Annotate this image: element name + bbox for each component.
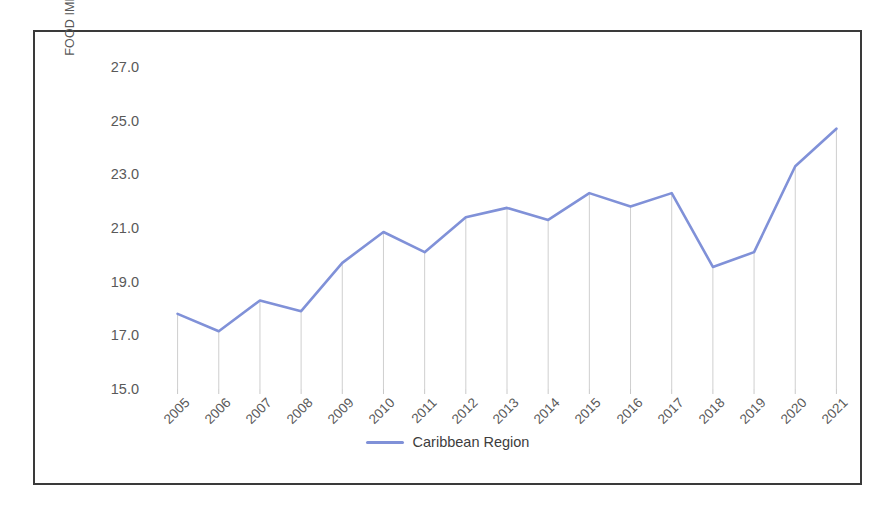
x-axis-tick-label: 2011 — [405, 395, 440, 430]
x-axis-tick-label: 2018 — [693, 395, 728, 430]
x-axis-tick-label: 2017 — [652, 395, 687, 430]
x-axis-tick-label: 2012 — [446, 395, 481, 430]
x-axis-tick-label: 2008 — [281, 395, 316, 430]
chart-legend: Caribbean Region — [35, 434, 860, 450]
x-axis-tick-label: 2021 — [816, 395, 851, 430]
y-axis-tick-label: 23.0 — [93, 166, 139, 182]
legend-line-swatch-caribbean-region — [366, 441, 404, 444]
x-axis-tick-label: 2019 — [734, 395, 769, 430]
y-axis-tick-label: 27.0 — [93, 59, 139, 75]
y-axis-tick-label: 21.0 — [93, 220, 139, 236]
x-axis-tick-label: 2020 — [775, 395, 810, 430]
x-axis-tick-label: 2010 — [363, 395, 398, 430]
x-axis-tick-label: 2009 — [322, 395, 357, 430]
x-axis-tick-label: 2014 — [528, 395, 563, 430]
x-axis-tick-label: 2007 — [240, 395, 275, 430]
y-axis-tick-label: 25.0 — [93, 113, 139, 129]
y-axis-tick-label: 17.0 — [93, 327, 139, 343]
y-axis-tick-label: 19.0 — [93, 274, 139, 290]
x-axis-tick-label: 2015 — [569, 395, 604, 430]
plot-area — [157, 67, 857, 389]
x-axis-tick-label: 2005 — [158, 395, 193, 430]
legend-label-caribbean-region: Caribbean Region — [413, 434, 530, 450]
line-chart-svg — [157, 67, 857, 389]
y-axis-tick-labels: 15.017.019.021.023.025.027.0 — [87, 32, 139, 483]
chart-plot-container: FOOD IMPORTS (% OF TOTAL MERCHANDISE IMP… — [35, 32, 860, 483]
x-axis-tick-label: 2016 — [610, 395, 645, 430]
x-axis-tick-label: 2006 — [199, 395, 234, 430]
x-axis-tick-label: 2013 — [487, 395, 522, 430]
chart-figure-frame: FOOD IMPORTS (% OF TOTAL MERCHANDISE IMP… — [33, 30, 862, 485]
y-axis-tick-label: 15.0 — [93, 381, 139, 397]
